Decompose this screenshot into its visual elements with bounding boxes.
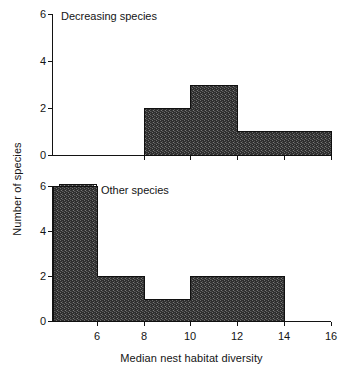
- x-axis-title: Median nest habitat diversity: [52, 352, 331, 364]
- histogram-figure: Number of species 6 4 2 0 Decreasing spe…: [0, 0, 351, 373]
- bottom-histogram-bars: [0, 0, 351, 373]
